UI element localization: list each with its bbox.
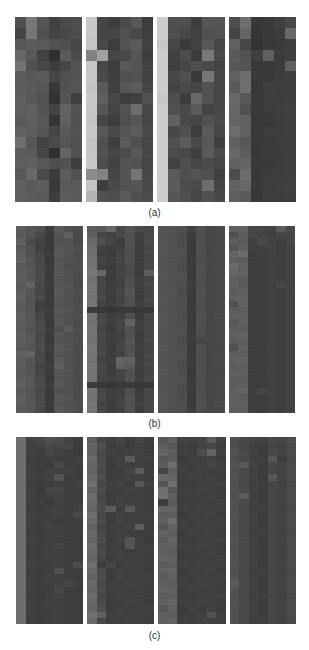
heatmap-cell xyxy=(263,191,274,202)
heatmap-cell xyxy=(287,618,296,624)
heatmap-cell xyxy=(120,158,131,169)
heatmap-cell xyxy=(15,93,26,104)
heatmap-cell xyxy=(196,407,206,413)
heatmap-cell xyxy=(168,407,178,413)
heatmap-cell xyxy=(86,158,97,169)
heatmap-cell xyxy=(49,93,60,104)
heatmap-cell xyxy=(73,407,83,413)
heatmap-cell xyxy=(142,137,153,148)
heatmap-cell xyxy=(263,104,274,115)
heatmap-cell xyxy=(157,126,168,137)
heatmap-cell xyxy=(180,17,191,28)
heatmap-cell xyxy=(202,137,213,148)
heatmap-cell xyxy=(26,61,37,72)
heatmap-cell xyxy=(229,137,240,148)
heatmap-cell xyxy=(97,115,108,126)
heatmap-cell xyxy=(86,148,97,159)
heatmap-cell xyxy=(97,169,108,180)
heatmap-cell xyxy=(37,82,48,93)
heatmap-cell xyxy=(16,618,26,624)
heatmap-cell xyxy=(263,82,274,93)
heatmap-cell xyxy=(229,17,240,28)
heatmap-cell xyxy=(191,191,202,202)
heatmap-cell xyxy=(240,126,251,137)
heatmap-cell xyxy=(49,17,60,28)
heatmap-cell xyxy=(202,50,213,61)
heatmap-cell xyxy=(45,407,55,413)
heatmap-cell xyxy=(191,169,202,180)
heatmap-cell xyxy=(285,191,296,202)
heatmap-cell xyxy=(157,28,168,39)
heatmap-cell xyxy=(131,50,142,61)
heatmap-cell xyxy=(97,158,108,169)
heatmap-cell xyxy=(87,618,97,624)
heatmap-cell xyxy=(191,17,202,28)
heatmap-cell xyxy=(37,93,48,104)
heatmap-cell xyxy=(116,618,126,624)
heatmap-cell xyxy=(202,191,213,202)
heatmap-cell xyxy=(86,39,97,50)
heatmap-panel-b3 xyxy=(158,226,225,413)
heatmap-cell xyxy=(37,169,48,180)
heatmap-cell xyxy=(97,28,108,39)
heatmap-cell xyxy=(37,39,48,50)
heatmap-cell xyxy=(207,618,217,624)
heatmap-cell xyxy=(86,137,97,148)
heatmap-cell xyxy=(15,82,26,93)
heatmap-cell xyxy=(285,17,296,28)
heatmap-cell xyxy=(274,39,285,50)
heatmap-cell xyxy=(86,180,97,191)
heatmap-cell xyxy=(157,180,168,191)
heatmap-cell xyxy=(108,115,119,126)
heatmap-cell xyxy=(71,169,82,180)
heatmap-cell xyxy=(71,148,82,159)
heatmap-cell xyxy=(64,407,74,413)
heatmap-cell xyxy=(106,618,116,624)
heatmap-cell xyxy=(240,148,251,159)
heatmap-cell xyxy=(49,115,60,126)
heatmap-cell xyxy=(37,137,48,148)
heatmap-cell xyxy=(108,50,119,61)
heatmap-cell xyxy=(37,61,48,72)
heatmap-cell xyxy=(15,180,26,191)
heatmap-cell xyxy=(131,169,142,180)
heatmap-cell xyxy=(191,137,202,148)
heatmap-cell xyxy=(71,104,82,115)
heatmap-cell xyxy=(240,71,251,82)
heatmap-cell xyxy=(97,137,108,148)
heatmap-cell xyxy=(214,71,225,82)
heatmap-cell xyxy=(285,39,296,50)
heatmap-cell xyxy=(251,137,262,148)
heatmap-cell xyxy=(142,28,153,39)
heatmap-cell xyxy=(15,191,26,202)
heatmap-cell xyxy=(180,104,191,115)
heatmap-cell xyxy=(214,148,225,159)
heatmap-cell xyxy=(15,39,26,50)
heatmap-cell xyxy=(251,61,262,72)
heatmap-cell xyxy=(49,28,60,39)
heatmap-cell xyxy=(108,148,119,159)
heatmap-cell xyxy=(214,28,225,39)
heatmap-cell xyxy=(267,407,276,413)
heatmap-cell xyxy=(238,407,247,413)
heatmap-cell xyxy=(180,137,191,148)
heatmap-cell xyxy=(60,158,71,169)
heatmap-cell xyxy=(131,61,142,72)
heatmap-cell xyxy=(168,180,179,191)
heatmap-cell xyxy=(37,17,48,28)
heatmap-cell xyxy=(86,191,97,202)
heatmap-cell xyxy=(187,407,197,413)
heatmap-cell xyxy=(251,126,262,137)
heatmap-cell xyxy=(86,17,97,28)
heatmap-cell xyxy=(15,50,26,61)
heatmap-cell xyxy=(108,93,119,104)
heatmap-cell xyxy=(251,71,262,82)
heatmap-cell xyxy=(274,180,285,191)
heatmap-cell xyxy=(157,61,168,72)
heatmap-cell xyxy=(86,115,97,126)
heatmap-cell xyxy=(229,28,240,39)
heatmap-cell xyxy=(214,39,225,50)
heatmap-cell xyxy=(240,104,251,115)
heatmap-cell xyxy=(131,28,142,39)
heatmap-cell xyxy=(157,93,168,104)
